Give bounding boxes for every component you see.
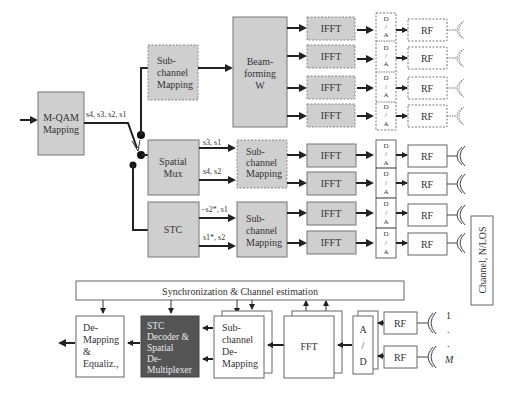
svg-text:W: W [255,80,265,91]
svg-text:RF: RF [421,25,434,36]
sync-channel-estimation-block: Synchronization & Channel estimation [76,281,404,300]
svg-text:/: / [385,179,387,187]
svg-text:IFFT: IFFT [321,51,342,62]
svg-text:Mapping: Mapping [222,358,258,369]
bf-antenna-icons [447,21,464,125]
fft-block: FFT [284,311,342,378]
svg-text:A: A [383,31,388,39]
svg-text:D: D [383,44,388,52]
svg-text:D: D [383,230,388,238]
stc-stream2-label: s1*, s2 [203,233,225,242]
spatial-mux-block: Spatial Mux [148,140,199,195]
svg-text:RF: RF [421,210,434,221]
antenna-dots-1: . [447,324,450,335]
svg-text:D: D [383,15,388,23]
ad-converter-block: A / D [353,311,378,374]
svg-text:IFFT: IFFT [321,237,342,248]
svg-text:A: A [383,188,388,196]
svg-text:/: / [385,150,387,158]
mqam-label-1: M-QAM [43,112,79,123]
svg-text:RF: RF [421,83,434,94]
svg-text:D: D [383,200,388,208]
switch-arm [84,123,137,148]
svg-text:/: / [385,239,387,247]
svg-text:De-: De- [83,322,98,333]
svg-text:Sub-: Sub- [222,322,241,333]
svg-text:A: A [383,159,388,167]
svg-text:channel: channel [246,225,277,236]
svg-text:RF: RF [394,318,407,329]
svg-text:FFT: FFT [300,341,317,352]
stc-subchannel-mapping-block: Sub- channel Mapping [237,202,287,257]
symbols-label: s4, s3, s2, s1 [86,110,126,119]
svg-text:/: / [385,209,387,217]
svg-text:RF: RF [421,179,434,190]
svg-text:Mapping: Mapping [246,168,282,179]
svg-text:A: A [383,120,388,128]
svg-text:Mapping: Mapping [246,237,282,248]
svg-text:Beam-: Beam- [247,56,274,67]
lower-chains: IFFT IFFT IFFT IFFT D / A D / A D / A D … [287,140,465,258]
svg-text:IFFT: IFFT [321,178,342,189]
svg-text:IFFT: IFFT [321,23,342,34]
svg-text:Synchronization & Channel esti: Synchronization & Channel estimation [162,286,318,297]
svg-text:A: A [383,91,388,99]
antenna-index-last: M [444,354,454,365]
svg-text:/: / [362,340,365,351]
svg-text:Mapping: Mapping [157,79,193,90]
svg-text:channel: channel [157,67,188,78]
svg-text:De-: De- [147,354,161,364]
mimo-ofdm-block-diagram: M-QAM Mapping s4, s3, s2, s1 Sub- channe… [0,0,515,394]
svg-text:A: A [359,324,367,335]
svg-text:forming: forming [244,68,276,79]
rx-antenna-icons [417,312,436,368]
svg-text:IFFT: IFFT [321,82,342,93]
wire-to-beamforming [141,68,148,135]
svg-text:channel: channel [246,157,277,168]
svg-text:Mapping: Mapping [83,334,119,345]
svg-text:D: D [383,74,388,82]
bf-subchannel-mapping-block: Sub- channel Mapping [148,45,198,100]
svg-text:/: / [385,83,387,91]
stc-block: STC [148,202,199,257]
wire-to-stc [133,165,148,230]
svg-text:Spatial: Spatial [147,343,174,353]
svg-text:IFFT: IFFT [321,150,342,161]
svg-text:Mux: Mux [164,168,183,179]
svg-text:A: A [383,218,388,226]
svg-text:Multiplexer: Multiplexer [147,365,193,375]
svg-text:STC: STC [147,321,164,331]
tx-antenna-icons [447,146,465,253]
svg-text:Sub-: Sub- [157,55,176,66]
svg-text:/: / [385,52,387,60]
rx-rf-block-2: RF [384,346,417,368]
svg-text:IFFT: IFFT [321,110,342,121]
subchannel-demapping-block: Sub- channel De- Mapping [214,311,272,378]
svg-text:D: D [359,356,366,367]
svg-text:A: A [383,248,388,256]
svg-text:RF: RF [394,352,407,363]
antenna-dots-2: . [447,338,450,349]
beamforming-block: Beam- forming W [233,17,287,127]
svg-text:RF: RF [421,53,434,64]
channel-label: Channel, N/LOS [477,226,488,293]
svg-text:Sub-: Sub- [246,213,265,224]
svg-text:RF: RF [421,111,434,122]
sm-stream1-label: s3, s1 [203,138,221,147]
svg-text:A: A [383,60,388,68]
bf-chains: IFFT IFFT IFFT IFFT D / A D / A D / A [287,13,464,130]
svg-text:STC: STC [164,224,183,235]
svg-text:Spatial: Spatial [159,156,187,167]
svg-text:D: D [383,170,388,178]
channel-box: Channel, N/LOS [471,216,493,305]
svg-text:Decoder &: Decoder & [147,332,190,342]
stc-decoder-block: STC Decoder & Spatial De- Multiplexer [141,316,199,377]
svg-text:channel: channel [222,334,253,345]
svg-text:D: D [383,103,388,111]
svg-text:Sub-: Sub- [246,146,265,157]
svg-text:IFFT: IFFT [321,208,342,219]
mqam-label-2: Mapping [43,124,79,135]
svg-text:Equaliz.,: Equaliz., [83,358,119,369]
sm-subchannel-mapping-block: Sub- channel Mapping [237,140,287,188]
mqam-mapping-block: M-QAM Mapping [38,92,84,155]
